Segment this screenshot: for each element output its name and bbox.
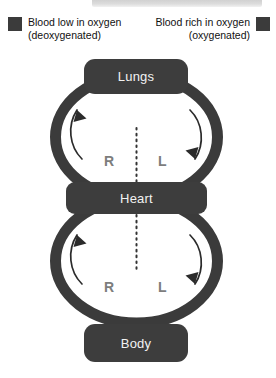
systemic-left-arrow-icon xyxy=(71,235,87,284)
top-grey-bar xyxy=(92,0,262,7)
legend-label-deoxygenated-line2: (deoxygenated) xyxy=(28,29,121,42)
systemic-right-arrow-icon xyxy=(186,235,202,284)
organ-label-heart: Heart xyxy=(120,191,153,206)
organ-box-lungs: Lungs xyxy=(84,59,188,94)
legend-label-oxygenated-line2: (oxygenated) xyxy=(155,29,250,42)
pulmonary-left-arrow-icon xyxy=(71,110,87,159)
legend-label-oxygenated: Blood rich in oxygen (oxygenated) xyxy=(155,16,250,41)
organ-box-body: Body xyxy=(84,324,188,362)
legend-swatch-deoxygenated-icon xyxy=(8,17,22,31)
legend-item-deoxygenated: Blood low in oxygen (deoxygenated) xyxy=(8,16,121,41)
legend-label-deoxygenated: Blood low in oxygen (deoxygenated) xyxy=(28,16,121,41)
diagram-page: Blood low in oxygen (deoxygenated) Blood… xyxy=(0,0,276,378)
side-label-l-pulmonary: L xyxy=(158,153,167,169)
legend-swatch-oxygenated-icon xyxy=(256,17,270,31)
side-label-r-systemic: R xyxy=(104,279,115,295)
pulmonary-right-arrow-icon xyxy=(186,110,202,159)
side-label-r-pulmonary: R xyxy=(104,153,115,169)
organ-box-heart: Heart xyxy=(66,182,207,214)
organ-label-body: Body xyxy=(121,336,151,351)
legend-label-oxygenated-line1: Blood rich in oxygen xyxy=(155,16,250,29)
side-label-l-systemic: L xyxy=(158,279,167,295)
legend-item-oxygenated: Blood rich in oxygen (oxygenated) xyxy=(155,16,270,41)
circulation-diagram: Lungs Heart Body R L R L xyxy=(0,48,276,378)
organ-label-lungs: Lungs xyxy=(118,69,154,84)
legend-label-deoxygenated-line1: Blood low in oxygen xyxy=(28,16,121,29)
legend: Blood low in oxygen (deoxygenated) Blood… xyxy=(0,14,276,48)
